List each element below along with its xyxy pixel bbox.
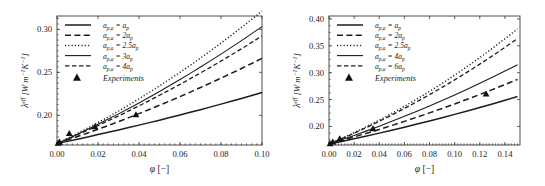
right-curve-group — [329, 29, 517, 144]
y-tick-label: 0.30 — [37, 24, 52, 34]
legend-label-1: ap,a = ap — [103, 21, 129, 31]
legend-label-3: ap,a = 2.5ap — [375, 41, 411, 51]
legend-label-2: ap,a = 2ap — [103, 31, 133, 41]
legend-experiment-marker — [73, 74, 81, 81]
x-axis-title: φ [−] — [415, 163, 435, 174]
legend-experiment-marker — [345, 74, 353, 81]
x-tick-label: 0.10 — [254, 149, 269, 159]
legend-label-experiments: Experiments — [102, 74, 144, 83]
series-line-5 — [329, 39, 517, 144]
x-tick-label: 0.12 — [472, 149, 487, 159]
x-tick-label: 0.10 — [447, 149, 462, 159]
left-legend: ap,a = apap,a = 2apap,a = 2.5apap,a = 3a… — [65, 21, 144, 83]
legend-label-3: ap,a = 2.5ap — [103, 41, 139, 51]
legend-label-4: ap,a = 4ap — [375, 52, 405, 62]
legend-label-experiments: Experiments — [374, 74, 416, 83]
series-line-3 — [57, 11, 262, 143]
x-tick-label: 0.00 — [49, 149, 64, 159]
x-tick-label: 0.08 — [422, 149, 437, 159]
legend-label-2: ap,a = 2ap — [375, 31, 405, 41]
series-line-1 — [57, 93, 262, 144]
chart-panel-right: 0.000.020.040.060.080.100.120.140.200.25… — [272, 0, 545, 186]
y-tick-label: 0.20 — [309, 121, 324, 131]
x-tick-label: 0.00 — [321, 149, 336, 159]
x-tick-label: 0.06 — [172, 149, 188, 159]
y-tick-label: 0.20 — [37, 110, 52, 120]
series-line-5 — [57, 36, 262, 144]
x-tick-label: 0.04 — [372, 149, 388, 159]
right-plot-svg: 0.000.020.040.060.080.100.120.140.200.25… — [272, 0, 545, 186]
x-tick-label: 0.14 — [497, 149, 513, 159]
series-line-4 — [57, 27, 262, 144]
x-tick-label: 0.04 — [131, 149, 147, 159]
figure-container: 0.000.020.040.060.080.100.200.250.30 ap,… — [0, 0, 545, 186]
y-tick-label: 0.40 — [309, 14, 324, 24]
experiment-marker — [66, 130, 73, 136]
x-tick-label: 0.02 — [347, 149, 362, 159]
legend-label-4: ap,a = 3ap — [103, 52, 133, 62]
x-tick-label: 0.06 — [397, 149, 413, 159]
y-tick-label: 0.25 — [37, 67, 52, 77]
chart-panel-left: 0.000.020.040.060.080.100.200.250.30 ap,… — [0, 0, 272, 186]
legend-label-5: ap,a = 4ap — [103, 62, 133, 72]
series-line-1 — [329, 97, 517, 145]
series-line-3 — [329, 29, 517, 144]
right-legend: ap,a = apap,a = 2apap,a = 2.5apap,a = 4a… — [337, 21, 416, 83]
x-axis-title: φ [−] — [150, 163, 170, 174]
legend-label-1: ap,a = ap — [375, 21, 401, 31]
x-tick-label: 0.08 — [213, 149, 228, 159]
legend-label-5: ap,a = 6ap — [375, 62, 405, 72]
y-axis-title: λeff [W m−1K−1] — [291, 53, 302, 109]
y-tick-label: 0.35 — [309, 41, 324, 51]
y-tick-label: 0.25 — [309, 95, 324, 105]
x-tick-label: 0.02 — [90, 149, 105, 159]
left-plot-svg: 0.000.020.040.060.080.100.200.250.30 ap,… — [0, 0, 272, 186]
left-curve-group — [57, 11, 262, 143]
y-axis-title: λeff [W m−1K−1] — [19, 53, 30, 109]
y-tick-label: 0.30 — [309, 68, 324, 78]
